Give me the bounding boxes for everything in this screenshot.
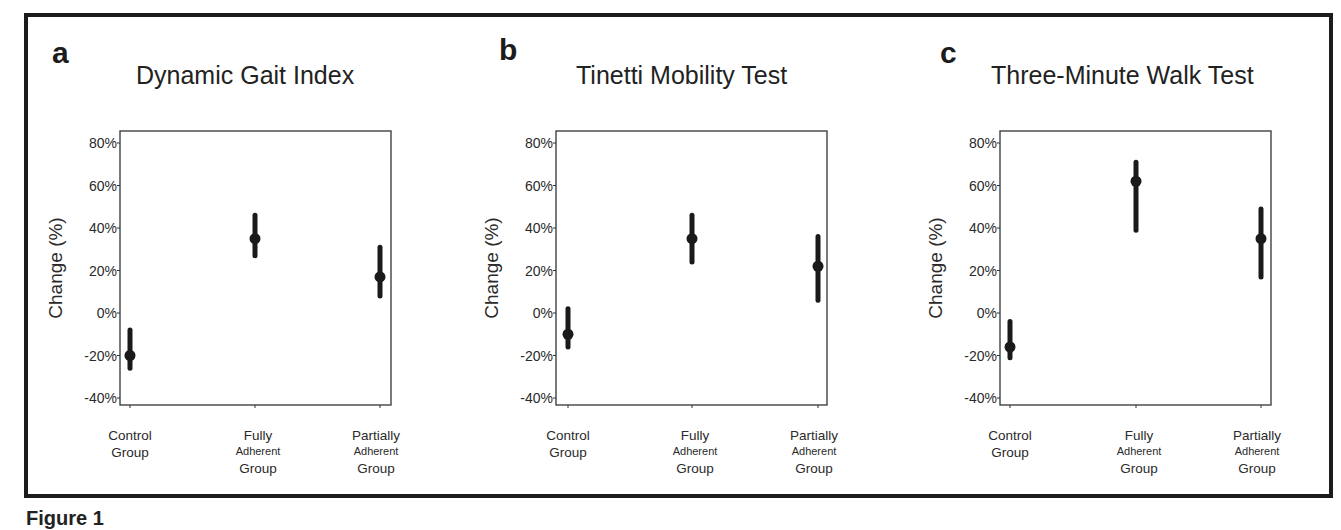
y-tick-label: 40% <box>89 220 117 236</box>
y-tick-label: -40% <box>520 390 553 406</box>
category-label: Adherent <box>1117 445 1162 457</box>
y-tick-label: 0% <box>533 305 553 321</box>
data-point <box>375 271 386 282</box>
y-tick-label: 80% <box>969 135 997 151</box>
plot-area <box>120 131 391 405</box>
y-axis-label: Change (%) <box>925 217 946 318</box>
y-tick-label: 20% <box>89 263 117 279</box>
y-tick-label: -40% <box>84 390 117 406</box>
category-label: Adherent <box>792 445 837 457</box>
y-tick-label: 60% <box>89 178 117 194</box>
category-label: Group <box>357 461 395 476</box>
category-label: Group <box>676 461 714 476</box>
data-point <box>687 233 698 244</box>
y-tick-label: 0% <box>97 305 117 321</box>
y-tick-label: 60% <box>525 178 553 194</box>
category-label: Group <box>1120 461 1158 476</box>
category-label: Adherent <box>236 445 281 457</box>
y-tick-label: 40% <box>525 220 553 236</box>
category-label: Adherent <box>354 445 399 457</box>
data-point <box>563 329 574 340</box>
category-label: Fully <box>244 428 273 443</box>
chart-panel-a: -40%-20%0%20%40%60%80%Change (%)ControlG… <box>45 131 400 476</box>
y-tick-label: 20% <box>525 263 553 279</box>
category-label: Partially <box>352 428 400 443</box>
category-label: Fully <box>681 428 710 443</box>
y-tick-label: 0% <box>977 305 997 321</box>
category-label: Partially <box>790 428 838 443</box>
y-tick-label: 20% <box>969 263 997 279</box>
category-label: Control <box>108 428 152 443</box>
category-label: Fully <box>1125 428 1154 443</box>
category-label: Group <box>111 445 149 460</box>
y-tick-label: -40% <box>964 390 997 406</box>
data-point <box>1005 342 1016 353</box>
category-label: Partially <box>1233 428 1281 443</box>
y-tick-label: 80% <box>89 135 117 151</box>
category-label: Control <box>546 428 590 443</box>
category-label: Control <box>988 428 1032 443</box>
category-label: Adherent <box>1235 445 1280 457</box>
category-label: Group <box>991 445 1029 460</box>
chart-panel-b: -40%-20%0%20%40%60%80%Change (%)ControlG… <box>481 131 838 476</box>
plot-area <box>556 131 827 405</box>
y-tick-label: -20% <box>520 348 553 364</box>
category-label: Group <box>549 445 587 460</box>
category-label: Group <box>239 461 277 476</box>
category-label: Group <box>795 461 833 476</box>
category-label: Group <box>1238 461 1276 476</box>
data-point <box>250 233 261 244</box>
figure-caption: Figure 1 <box>26 507 104 530</box>
chart-panel-c: -40%-20%0%20%40%60%80%Change (%)ControlG… <box>925 131 1281 476</box>
y-axis-label: Change (%) <box>45 217 66 318</box>
data-point <box>1256 233 1267 244</box>
data-point <box>813 261 824 272</box>
data-point <box>125 350 136 361</box>
y-tick-label: -20% <box>84 348 117 364</box>
category-label: Adherent <box>673 445 718 457</box>
data-point <box>1131 176 1142 187</box>
y-tick-label: 40% <box>969 220 997 236</box>
y-tick-label: 60% <box>969 178 997 194</box>
y-tick-label: 80% <box>525 135 553 151</box>
y-tick-label: -20% <box>964 348 997 364</box>
y-axis-label: Change (%) <box>481 217 502 318</box>
